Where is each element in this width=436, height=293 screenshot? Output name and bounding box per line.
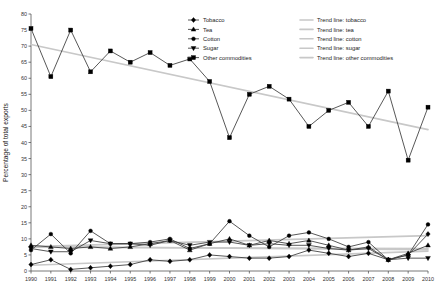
x-axis-tick-label: 1999	[204, 276, 216, 282]
data-point-marker	[208, 79, 212, 83]
y-axis-tick-label: 60	[21, 75, 27, 81]
x-axis-tick-label: 2008	[382, 276, 394, 282]
legend-item-tea: Tea	[203, 27, 213, 33]
data-point-marker	[49, 232, 53, 236]
x-axis-tick-label: 2003	[283, 276, 295, 282]
data-point-marker	[287, 234, 291, 238]
data-point-marker	[192, 56, 196, 60]
y-axis-tick-label: 20	[21, 204, 27, 210]
x-axis-tick-label: 2005	[323, 276, 335, 282]
y-axis-tick-label: 10	[21, 236, 27, 242]
x-axis-tick-label: 2010	[422, 276, 434, 282]
y-axis-tick-label: 45	[21, 123, 27, 129]
data-point-marker	[128, 60, 132, 64]
data-point-marker	[406, 158, 410, 162]
data-point-marker	[69, 28, 73, 32]
data-point-marker	[207, 252, 211, 257]
data-point-marker	[29, 262, 33, 267]
line-chart-svg: 05101520253035404550556065707580Percenta…	[0, 0, 436, 293]
data-point-marker	[386, 89, 390, 93]
y-axis-tick-label: 0	[24, 268, 27, 274]
data-point-marker	[228, 136, 232, 140]
y-axis-title: Percentage of total exports	[2, 102, 10, 182]
data-point-marker	[247, 234, 251, 238]
y-axis-tick-label: 50	[21, 107, 27, 113]
data-point-marker	[426, 243, 431, 247]
x-axis-tick-label: 2001	[243, 276, 255, 282]
y-axis-tick-label: 15	[21, 220, 27, 226]
data-point-marker	[346, 254, 350, 259]
legend-item-trend-tea: Trend line: tea	[317, 27, 355, 33]
y-axis-tick-label: 30	[21, 172, 27, 178]
x-axis-tick-label: 1993	[85, 276, 97, 282]
data-point-marker	[287, 254, 291, 259]
legend-item-other-commodities: Other commodities	[203, 55, 252, 61]
legend-item-sugar: Sugar	[203, 45, 219, 51]
data-point-marker	[366, 124, 370, 128]
data-point-marker	[191, 18, 195, 23]
data-point-marker	[108, 49, 112, 53]
data-point-marker	[49, 257, 53, 262]
data-point-marker	[188, 257, 192, 262]
data-point-marker	[267, 84, 271, 88]
data-point-marker	[307, 124, 311, 128]
x-axis-tick-label: 1991	[45, 276, 57, 282]
x-axis-tick-label: 1990	[25, 276, 37, 282]
legend-item-tobacco: Tobacco	[203, 17, 225, 23]
x-axis-tick-label: 2000	[224, 276, 236, 282]
y-axis-tick-label: 5	[24, 252, 27, 258]
data-point-marker	[327, 237, 331, 241]
data-point-marker	[108, 264, 112, 269]
y-axis-tick-label: 65	[21, 59, 27, 65]
x-axis-tick-label: 1997	[164, 276, 176, 282]
data-point-marker	[89, 229, 93, 233]
data-point-marker	[307, 231, 311, 235]
x-axis-tick-label: 2007	[362, 276, 374, 282]
y-axis-tick-label: 55	[21, 91, 27, 97]
data-point-marker	[247, 92, 251, 96]
y-axis-tick-label: 70	[21, 43, 27, 49]
data-point-marker	[192, 37, 196, 41]
data-point-marker	[247, 256, 251, 261]
data-point-marker	[29, 243, 34, 247]
data-point-marker	[228, 219, 232, 223]
data-point-marker	[287, 97, 291, 101]
data-point-marker	[88, 265, 92, 270]
data-point-marker	[426, 105, 430, 109]
data-point-marker	[49, 75, 53, 79]
y-axis-tick-label: 80	[21, 11, 27, 17]
y-axis-tick-label: 25	[21, 188, 27, 194]
series-other-commodities	[29, 26, 430, 162]
legend-item-cotton: Cotton	[203, 36, 220, 42]
legend-item-trend-sugar: Trend line: sugar	[317, 45, 360, 51]
x-axis-tick-label: 2004	[303, 276, 315, 282]
legend-item-trend-other-commodities: Trend line: other commodities	[317, 55, 393, 61]
data-point-marker	[168, 63, 172, 67]
y-axis-tick-label: 75	[21, 27, 27, 33]
data-point-marker	[148, 51, 152, 55]
data-point-marker	[89, 70, 93, 74]
data-point-marker	[366, 251, 370, 256]
chart-figure: 05101520253035404550556065707580Percenta…	[0, 0, 436, 293]
x-axis-tick-label: 2002	[263, 276, 275, 282]
x-axis-tick-label: 2006	[343, 276, 355, 282]
data-point-marker	[227, 236, 232, 240]
x-axis-tick-label: 1998	[184, 276, 196, 282]
y-axis-tick-label: 35	[21, 156, 27, 162]
x-axis-tick-label: 1994	[104, 276, 116, 282]
x-axis-tick-label: 1996	[144, 276, 156, 282]
x-axis-tick-label: 2009	[402, 276, 414, 282]
series-path	[31, 28, 428, 160]
x-axis-tick-label: 1995	[124, 276, 136, 282]
legend-item-trend-cotton: Trend line: cotton	[317, 36, 362, 42]
y-axis-tick-label: 40	[21, 140, 27, 146]
data-point-marker	[128, 262, 132, 267]
data-point-marker	[426, 223, 430, 227]
chart-legend: TobaccoTeaCottonSugarOther commoditiesTr…	[188, 17, 393, 61]
data-point-marker	[367, 240, 371, 244]
data-point-marker	[29, 26, 33, 30]
x-axis-tick-label: 1992	[65, 276, 77, 282]
legend-item-trend-tobacco: Trend line: tobacco	[317, 17, 366, 23]
data-point-marker	[347, 100, 351, 104]
data-point-marker	[327, 108, 331, 112]
